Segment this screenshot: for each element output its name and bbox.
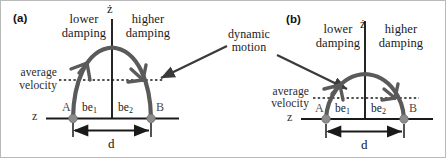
panel-a-segment-right-text: be bbox=[118, 101, 129, 113]
panel-b-higher-damping-line2: damping bbox=[369, 37, 433, 50]
panel-b-segment-left-label: be1 bbox=[335, 103, 350, 115]
panel-b-tag: (b) bbox=[286, 14, 301, 26]
figure-container: (a) lower damping higher damping ż avera… bbox=[0, 0, 446, 158]
dynamic-motion-leader-arrow-b bbox=[277, 55, 347, 89]
panel-b-average-velocity-line2: velocity bbox=[253, 98, 309, 110]
panel-a-point-b-label: B bbox=[156, 101, 164, 113]
dynamic-motion-leader-arrow-a bbox=[161, 46, 227, 78]
panel-b-segment-left-sub: 1 bbox=[346, 107, 350, 116]
dynamic-motion-label-line1: dynamic bbox=[220, 28, 278, 40]
panel-a-point-a-label: A bbox=[62, 101, 71, 113]
panel-a-lower-damping-line1: lower bbox=[56, 13, 112, 26]
panel-a-segment-left-text: be bbox=[82, 101, 93, 113]
panel-b-average-velocity-line1: average bbox=[253, 86, 309, 98]
panel-b-point-b-marker bbox=[400, 115, 408, 123]
panel-a-right-direction-arrow bbox=[128, 65, 146, 82]
panel-b-dimension-label: d bbox=[361, 138, 368, 151]
panel-a-average-velocity-line2: velocity bbox=[3, 80, 57, 92]
panel-b-segment-left-text: be bbox=[335, 102, 346, 114]
panel-a-dimension-label: d bbox=[108, 137, 115, 150]
panel-b-point-a-label: A bbox=[315, 102, 324, 114]
panel-a-segment-right-label: be2 bbox=[118, 102, 133, 114]
panel-a-segment-left-sub: 1 bbox=[93, 106, 97, 115]
panel-a-higher-damping-line2: damping bbox=[116, 27, 180, 40]
panel-b-segment-right-sub: 2 bbox=[382, 107, 386, 116]
panel-a-segment-left-label: be1 bbox=[82, 102, 97, 114]
panel-b-lower-damping-line2: damping bbox=[306, 37, 370, 50]
panel-b-segment-right-text: be bbox=[371, 102, 382, 114]
panel-a-point-b-marker bbox=[147, 114, 155, 122]
panel-a-point-a-marker bbox=[69, 114, 77, 122]
panel-b-vertical-axis-label: ż bbox=[360, 18, 446, 31]
panel-b-point-b-label: B bbox=[409, 102, 417, 114]
panel-a-lower-damping-line2: damping bbox=[52, 27, 116, 40]
panel-b-point-a-marker bbox=[322, 115, 330, 123]
panel-a-average-velocity-line1: average bbox=[3, 67, 57, 79]
panel-b-horizontal-axis-label: z bbox=[287, 111, 292, 123]
panel-a-horizontal-axis-label: z bbox=[32, 110, 37, 122]
panel-a-segment-right-sub: 2 bbox=[129, 106, 133, 115]
dynamic-motion-label-line2: motion bbox=[220, 41, 278, 53]
panel-a-tag: (a) bbox=[13, 13, 27, 25]
panel-b-segment-right-label: be2 bbox=[371, 103, 386, 115]
panel-b-lower-damping-line1: lower bbox=[310, 23, 366, 36]
panel-a-vertical-axis-label: ż bbox=[107, 3, 446, 16]
